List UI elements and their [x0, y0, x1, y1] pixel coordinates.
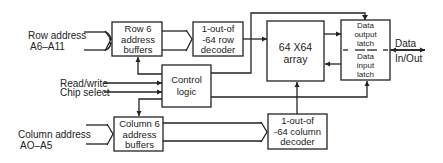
memory-block-diagram: Row address A6–A11 Read/write Chip selec… [0, 0, 443, 163]
row-decoder-line1: 1-out-of [193, 24, 243, 35]
row-buffers-label: Row 6 address buffers [112, 24, 164, 56]
input-latch-label: Data input latch [341, 52, 390, 79]
column-buffers-label: Column 6 address buffers [114, 119, 165, 151]
output-latch-line1: Data [341, 21, 390, 30]
array-line1: 64 X64 [267, 41, 324, 53]
data-label: Data [395, 38, 416, 49]
row-buffers-line1: Row 6 [112, 24, 164, 35]
output-latch-label: Data output latch [341, 21, 390, 48]
column-buffers-line1: Column 6 [114, 119, 165, 130]
column-decoder-line1: 1-out-of [268, 116, 327, 127]
control-logic-label: Control logic [162, 74, 211, 98]
row-address-range: A6–A11 [28, 41, 86, 52]
column-address-text: Column address [18, 129, 91, 140]
output-latch-line2: output [341, 30, 390, 39]
row-address-text: Row address [28, 30, 86, 41]
in-out-label: In/Out [395, 53, 422, 64]
column-address-label: Column address AO–A5 [18, 129, 91, 151]
control-line1: Control [162, 74, 211, 86]
column-decoder-label: 1-out-of -64 column decoder [268, 116, 327, 148]
array-label: 64 X64 array [267, 41, 324, 65]
input-latch-line3: latch [341, 70, 390, 79]
array-line2: array [267, 53, 324, 65]
chip-select-label: Chip select [60, 87, 109, 98]
input-latch-line2: input [341, 61, 390, 70]
row-decoder-line3: decoder [193, 45, 243, 56]
output-latch-line3: latch [341, 39, 390, 48]
column-buffers-line3: buffers [114, 140, 165, 151]
input-latch-line1: Data [341, 52, 390, 61]
column-address-range: AO–A5 [18, 140, 91, 151]
control-line2: logic [162, 86, 211, 98]
row-buffers-line3: buffers [112, 45, 164, 56]
row-address-label: Row address A6–A11 [28, 30, 86, 52]
column-decoder-line3: decoder [268, 137, 327, 148]
row-decoder-label: 1-out-of -64 row decoder [193, 24, 243, 56]
